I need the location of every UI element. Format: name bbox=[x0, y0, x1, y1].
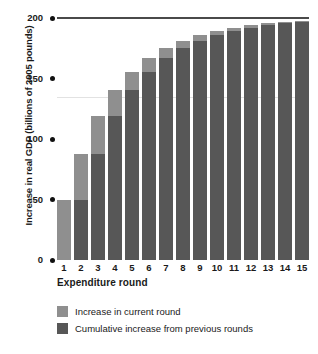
bar-stack bbox=[295, 21, 309, 260]
bar-stack bbox=[244, 25, 258, 260]
bar-segment-previous-rounds bbox=[193, 41, 207, 260]
bar-segment-previous-rounds bbox=[176, 48, 190, 260]
y-tick-dot-icon bbox=[50, 16, 55, 21]
plot-area: 200 150 100 50 0 bbox=[57, 18, 309, 260]
bar-column bbox=[261, 18, 275, 260]
legend-label: Cumulative increase from previous rounds bbox=[75, 323, 253, 334]
y-tick-dot-icon bbox=[50, 137, 55, 142]
y-tick-label: 100 bbox=[27, 133, 43, 145]
x-tick-label: 5 bbox=[125, 261, 139, 274]
bar-column bbox=[278, 18, 292, 260]
bar-stack bbox=[261, 23, 275, 260]
y-tick-dot-icon bbox=[50, 76, 55, 81]
bar-series-container bbox=[57, 18, 309, 260]
y-tick-200: 200 bbox=[2, 12, 57, 24]
bar-stack bbox=[91, 116, 105, 260]
x-tick-label: 8 bbox=[176, 261, 190, 274]
bar-stack bbox=[193, 35, 207, 260]
bar-column bbox=[210, 18, 224, 260]
legend-item-previous-rounds: Cumulative increase from previous rounds bbox=[57, 320, 312, 337]
x-tick-label: 11 bbox=[227, 261, 241, 274]
bar-segment-previous-rounds bbox=[261, 25, 275, 260]
bar-segment-previous-rounds bbox=[74, 200, 88, 261]
bar-stack bbox=[278, 22, 292, 260]
bar-segment-previous-rounds bbox=[244, 28, 258, 260]
bar-stack bbox=[125, 72, 139, 260]
y-tick-50: 50 bbox=[2, 194, 57, 206]
bar-column bbox=[193, 18, 207, 260]
bar-column bbox=[244, 18, 258, 260]
bar-column bbox=[108, 18, 122, 260]
y-tick-150: 150 bbox=[2, 73, 57, 85]
bar-stack bbox=[210, 31, 224, 260]
legend-label: Increase in current round bbox=[75, 306, 181, 317]
bar-segment-current-round bbox=[176, 41, 190, 49]
y-tick-dot-icon bbox=[50, 258, 55, 263]
bar-segment-previous-rounds bbox=[278, 23, 292, 260]
bar-segment-previous-rounds bbox=[125, 90, 139, 260]
x-tick-label: 3 bbox=[91, 261, 105, 274]
y-tick-100: 100 bbox=[2, 133, 57, 145]
x-tick-label: 7 bbox=[159, 261, 173, 274]
y-tick-dot-icon bbox=[50, 197, 55, 202]
bar-segment-previous-rounds bbox=[91, 154, 105, 260]
legend-swatch-icon bbox=[57, 323, 68, 334]
bar-stack bbox=[57, 200, 71, 261]
bar-stack bbox=[159, 48, 173, 260]
x-axis-tick-labels: 123456789101112131415 bbox=[57, 261, 309, 274]
bar-segment-previous-rounds bbox=[227, 31, 241, 260]
bar-segment-current-round bbox=[74, 154, 88, 199]
legend-swatch-icon bbox=[57, 306, 68, 317]
bar-column bbox=[125, 18, 139, 260]
bar-stack bbox=[176, 41, 190, 260]
bar-segment-current-round bbox=[57, 200, 71, 261]
bar-column bbox=[57, 18, 71, 260]
bar-segment-previous-rounds bbox=[142, 72, 156, 260]
x-tick-label: 6 bbox=[142, 261, 156, 274]
y-tick-label: 50 bbox=[32, 194, 43, 206]
x-tick-label: 4 bbox=[108, 261, 122, 274]
x-tick-label: 10 bbox=[210, 261, 224, 274]
chart-legend: Increase in current round Cumulative inc… bbox=[57, 303, 312, 337]
bar-column bbox=[74, 18, 88, 260]
bar-segment-previous-rounds bbox=[295, 22, 309, 260]
bar-column bbox=[159, 18, 173, 260]
chart-figure: Increase in real GDP (billions of 2005 p… bbox=[0, 0, 318, 354]
x-tick-label: 9 bbox=[193, 261, 207, 274]
x-tick-label: 15 bbox=[295, 261, 309, 274]
x-tick-label: 1 bbox=[57, 261, 71, 274]
bar-segment-previous-rounds bbox=[210, 35, 224, 260]
bar-stack bbox=[108, 90, 122, 260]
bar-segment-current-round bbox=[91, 116, 105, 154]
x-tick-label: 2 bbox=[74, 261, 88, 274]
bar-column bbox=[227, 18, 241, 260]
bar-segment-previous-rounds bbox=[159, 58, 173, 260]
bar-stack bbox=[74, 154, 88, 260]
y-tick-label: 150 bbox=[27, 73, 43, 85]
y-axis-title: Increase in real GDP (billions of 2005 p… bbox=[23, 6, 34, 246]
bar-segment-current-round bbox=[142, 58, 156, 71]
bar-column bbox=[295, 18, 309, 260]
y-tick-label: 0 bbox=[38, 254, 43, 266]
bar-segment-previous-rounds bbox=[108, 116, 122, 260]
x-tick-label: 14 bbox=[278, 261, 292, 274]
bar-stack bbox=[227, 28, 241, 260]
bar-segment-current-round bbox=[125, 72, 139, 90]
y-tick-label: 200 bbox=[27, 12, 43, 24]
x-axis-title: Expenditure round bbox=[57, 277, 148, 288]
x-tick-label: 13 bbox=[261, 261, 275, 274]
bar-column bbox=[176, 18, 190, 260]
bar-segment-current-round bbox=[159, 48, 173, 58]
bar-segment-current-round bbox=[108, 90, 122, 116]
bar-column bbox=[91, 18, 105, 260]
legend-item-current-round: Increase in current round bbox=[57, 303, 312, 320]
x-tick-label: 12 bbox=[244, 261, 258, 274]
bar-stack bbox=[142, 58, 156, 260]
bar-column bbox=[142, 18, 156, 260]
y-tick-0: 0 bbox=[2, 254, 57, 266]
